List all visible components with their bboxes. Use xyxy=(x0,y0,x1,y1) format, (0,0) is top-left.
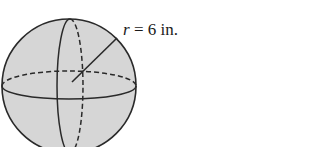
radius-equals: = xyxy=(130,20,148,39)
radius-variable: r xyxy=(123,20,130,39)
radius-unit: in. xyxy=(156,20,178,39)
radius-label: r = 6 in. xyxy=(123,20,178,40)
radius-value: 6 xyxy=(148,20,157,39)
